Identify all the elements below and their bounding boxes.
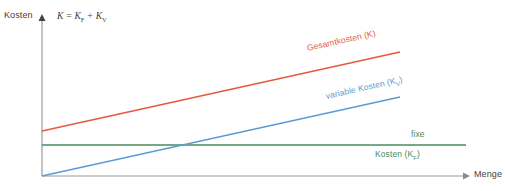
series-label-fixed-cost-text: Kosten (K bbox=[375, 149, 413, 159]
variable-cost-line bbox=[42, 97, 400, 176]
x-axis-label: Menge bbox=[474, 169, 502, 179]
cost-formula: K = KF + KV bbox=[57, 11, 107, 23]
chart-canvas bbox=[0, 0, 505, 191]
series-label-fixed-cost-close: ) bbox=[417, 149, 420, 159]
cost-function-chart: Kosten Menge K = KF + KV Gesamtkosten (K… bbox=[0, 0, 505, 191]
series-label-fixed-cost-line2: Kosten (KF) bbox=[375, 149, 420, 161]
y-axis-label: Kosten bbox=[4, 10, 33, 20]
formula-plus: + bbox=[84, 11, 95, 21]
formula-equals: = bbox=[63, 11, 74, 21]
formula-term-variable-subscript: V bbox=[102, 16, 107, 23]
series-label-fixed-cost-line1: fixe bbox=[411, 129, 425, 139]
